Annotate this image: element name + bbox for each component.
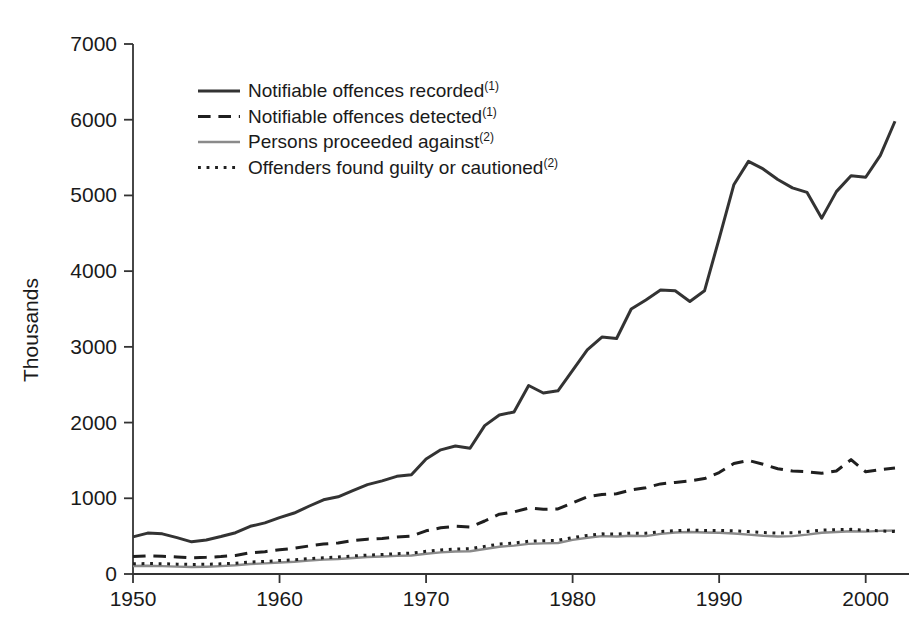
chart-legend: Notifiable offences recorded(1)Notifiabl… (198, 79, 558, 178)
chart-series (133, 121, 895, 567)
y-tick-label: 2000 (70, 411, 117, 434)
series-line-3 (133, 529, 895, 564)
y-axis-title: Thousands (19, 278, 42, 382)
legend-label-2: Persons proceeded against(2) (248, 130, 494, 152)
y-tick-label: 7000 (70, 32, 117, 55)
x-tick-label: 1960 (256, 587, 303, 610)
y-tick-label: 5000 (70, 183, 117, 206)
series-line-0 (133, 121, 895, 542)
x-tick-label: 1950 (110, 587, 157, 610)
legend-label-0: Notifiable offences recorded(1) (248, 79, 499, 101)
y-tick-label: 4000 (70, 259, 117, 282)
chart-container: 01000200030004000500060007000 1950196019… (0, 0, 914, 634)
series-line-1 (133, 460, 895, 558)
legend-label-3: Offenders found guilty or cautioned(2) (248, 156, 558, 178)
x-tick-label: 1990 (696, 587, 743, 610)
x-tick-label: 2000 (842, 587, 889, 610)
chart-axes (124, 44, 909, 583)
y-tick-label: 6000 (70, 108, 117, 131)
y-tick-label: 3000 (70, 335, 117, 358)
y-tick-label: 0 (105, 562, 117, 585)
y-axis-tick-labels: 01000200030004000500060007000 (70, 32, 117, 585)
line-chart: 01000200030004000500060007000 1950196019… (0, 0, 914, 634)
x-tick-label: 1980 (549, 587, 596, 610)
x-tick-label: 1970 (403, 587, 450, 610)
series-line-2 (133, 530, 895, 567)
y-tick-label: 1000 (70, 486, 117, 509)
legend-label-1: Notifiable offences detected(1) (248, 105, 497, 127)
x-axis-tick-labels: 195019601970198019902000 (110, 587, 889, 610)
